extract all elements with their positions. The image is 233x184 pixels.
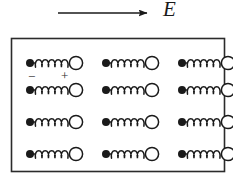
filled-circle-icon: [26, 150, 34, 158]
open-circle-icon: [221, 147, 233, 160]
filled-circle-icon: [102, 86, 110, 94]
open-circle-icon: [145, 147, 158, 160]
open-circle-icon: [221, 83, 233, 96]
dipole-array-figure: [0, 0, 233, 184]
filled-circle-icon: [178, 118, 186, 126]
open-circle-icon: [221, 115, 233, 128]
filled-circle-icon: [26, 118, 34, 126]
filled-circle-icon: [102, 59, 110, 67]
open-circle-icon: [145, 115, 158, 128]
open-circle-icon: [69, 83, 82, 96]
open-circle-icon: [145, 83, 158, 96]
open-circle-icon: [221, 56, 233, 69]
open-circle-icon: [69, 147, 82, 160]
open-circle-icon: [145, 56, 158, 69]
open-circle-icon: [69, 56, 82, 69]
filled-circle-icon: [178, 150, 186, 158]
filled-circle-icon: [178, 86, 186, 94]
positive-charge-label: +: [61, 69, 68, 82]
filled-circle-icon: [26, 59, 34, 67]
open-circle-icon: [69, 115, 82, 128]
negative-charge-label: −: [28, 70, 35, 83]
field-label-E: E: [163, 0, 176, 20]
filled-circle-icon: [102, 118, 110, 126]
filled-circle-icon: [26, 86, 34, 94]
filled-circle-icon: [102, 150, 110, 158]
filled-circle-icon: [178, 59, 186, 67]
